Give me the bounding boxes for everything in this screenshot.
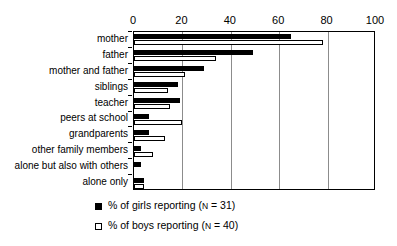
bar-group bbox=[134, 48, 374, 64]
bar-boys bbox=[134, 88, 168, 93]
category-label: siblings bbox=[95, 81, 128, 92]
bar-girls bbox=[134, 146, 141, 151]
bar-boys bbox=[134, 136, 165, 141]
category-label: peers at school bbox=[60, 112, 128, 123]
bar-group bbox=[134, 64, 374, 80]
axis-tick bbox=[128, 63, 132, 64]
bar-boys bbox=[134, 56, 216, 61]
bar-girls bbox=[134, 114, 149, 119]
axis-tick bbox=[128, 142, 132, 143]
bar-group bbox=[134, 127, 374, 143]
bar-girls bbox=[134, 130, 149, 135]
category-label: father bbox=[102, 49, 128, 60]
category-label: mother and father bbox=[49, 65, 128, 76]
axis-tick bbox=[128, 158, 132, 159]
axis-tick bbox=[128, 126, 132, 127]
open-square-icon bbox=[95, 223, 102, 230]
category-label: teacher bbox=[95, 97, 128, 108]
bar-boys bbox=[134, 104, 170, 109]
axis-tick bbox=[128, 79, 132, 80]
bar-girls bbox=[134, 98, 180, 103]
bar-rows bbox=[134, 32, 374, 189]
chart-legend: % of girls reporting (N = 31) % of boys … bbox=[0, 196, 397, 236]
category-label: alone but also with others bbox=[15, 160, 128, 171]
bar-girls bbox=[134, 178, 144, 183]
x-axis-tick-label: 40 bbox=[215, 14, 245, 27]
y-axis-category-labels: motherfathermother and fathersiblingstea… bbox=[0, 31, 131, 190]
category-label: grandparents bbox=[69, 128, 128, 139]
x-axis-tick-label: 20 bbox=[166, 14, 196, 27]
axis-tick bbox=[128, 95, 132, 96]
legend-item-girls: % of girls reporting (N = 31) bbox=[0, 196, 397, 216]
bar-girls bbox=[134, 50, 253, 55]
bar-group bbox=[134, 96, 374, 112]
filled-square-icon bbox=[95, 203, 102, 210]
bar-group bbox=[134, 175, 374, 191]
x-axis-tick-label: 80 bbox=[312, 14, 342, 27]
bar-boys bbox=[134, 120, 182, 125]
bar-boys bbox=[134, 152, 153, 157]
bar-group bbox=[134, 80, 374, 96]
axis-tick bbox=[128, 174, 132, 175]
axis-tick bbox=[128, 47, 132, 48]
bar-girls bbox=[134, 82, 178, 87]
bar-boys bbox=[134, 72, 185, 77]
axis-tick bbox=[128, 31, 132, 32]
x-axis-tick-labels: 0 20 40 60 80 100 bbox=[0, 14, 397, 28]
bar-group bbox=[134, 159, 374, 175]
bar-chart: 0 20 40 60 80 100 motherfathermother and… bbox=[0, 0, 397, 246]
plot-area bbox=[133, 31, 375, 190]
x-axis-tick-label: 100 bbox=[360, 14, 390, 27]
category-label: other family members bbox=[32, 144, 128, 155]
category-label: mother bbox=[97, 33, 128, 44]
category-label: alone only bbox=[82, 176, 128, 187]
bar-boys bbox=[134, 40, 323, 45]
bar-boys bbox=[134, 184, 144, 189]
legend-label-boys: % of boys reporting (N = 40) bbox=[108, 219, 238, 233]
bar-group bbox=[134, 112, 374, 128]
bar-girls bbox=[134, 66, 204, 71]
x-axis-tick-label: 0 bbox=[118, 14, 148, 27]
bar-group bbox=[134, 143, 374, 159]
bar-group bbox=[134, 32, 374, 48]
legend-label-girls: % of girls reporting (N = 31) bbox=[108, 199, 235, 213]
bar-girls bbox=[134, 162, 141, 167]
legend-item-boys: % of boys reporting (N = 40) bbox=[0, 216, 397, 236]
bar-girls bbox=[134, 34, 291, 39]
x-axis-tick-label: 60 bbox=[263, 14, 293, 27]
axis-tick bbox=[128, 111, 132, 112]
